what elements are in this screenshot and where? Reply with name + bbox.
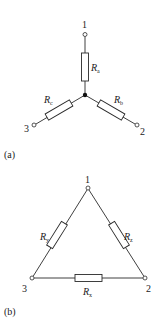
delta-network: 1 2 3 Rx Ry Rz (b) (4, 174, 151, 318)
label-rx: Rx (82, 286, 92, 298)
resistor-ra (82, 53, 89, 81)
resistor-rx (75, 275, 102, 282)
label-ra: Ra (90, 62, 100, 74)
label-rb: Rb (113, 94, 123, 106)
star-delta-diagram: 1 2 3 Ra Rb Rc (a) 1 2 3 Rx (0, 0, 161, 321)
delta-terminal-1 (86, 186, 90, 190)
label-rz: Rz (123, 231, 133, 243)
delta-label-3: 3 (22, 283, 27, 294)
star-network: 1 2 3 Ra Rb Rc (a) (4, 19, 145, 161)
caption-a: (a) (4, 149, 15, 161)
delta-label-2: 2 (146, 283, 151, 294)
delta-label-1: 1 (85, 174, 90, 185)
star-label-2: 2 (140, 126, 145, 137)
resistor-ry (47, 221, 68, 248)
star-terminal-1 (83, 33, 87, 37)
caption-b: (b) (4, 306, 16, 318)
label-rc: Rc (43, 94, 53, 106)
star-terminal-2 (135, 123, 139, 127)
star-terminal-3 (32, 123, 36, 127)
label-ry: Ry (39, 231, 49, 243)
star-label-3: 3 (24, 123, 29, 134)
delta-terminal-3 (30, 276, 34, 280)
star-center-node (83, 93, 87, 97)
delta-terminal-2 (143, 276, 147, 280)
star-label-1: 1 (82, 19, 87, 30)
